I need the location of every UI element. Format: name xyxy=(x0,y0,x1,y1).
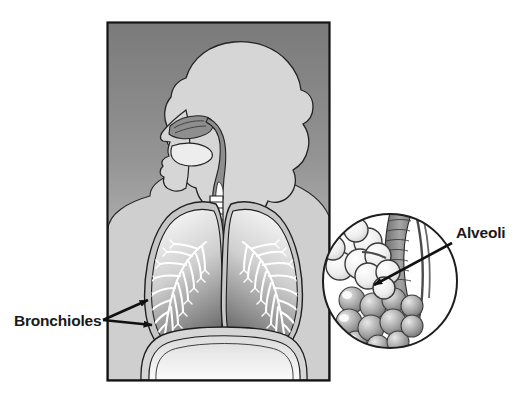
diaphragm-abdomen xyxy=(141,327,307,380)
alveoli-magnification-circle xyxy=(321,212,457,357)
oral-cavity-tongue xyxy=(171,143,212,166)
alveoli-label-text: Alveoli xyxy=(456,224,505,241)
diaphragm-inner xyxy=(149,336,300,380)
torso-panel xyxy=(108,23,330,381)
bronchioles-label-text: Bronchioles xyxy=(14,312,101,329)
respiratory-system-figure: Bronchioles Alveoli xyxy=(0,0,523,405)
